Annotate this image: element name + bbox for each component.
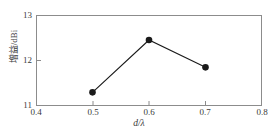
chart-figure: 13 12 11 0.4 0.5 0.6 0.7 0.8 d/λ 增益/dBi	[0, 0, 278, 139]
data-point-1	[146, 37, 153, 44]
y-axis-title: 增益/dBi	[7, 7, 20, 87]
data-point-0	[89, 89, 96, 96]
x-tick-label-0-5: 0.5	[80, 107, 106, 117]
x-axis-title: d/λ	[0, 118, 278, 128]
series-line-gain	[93, 40, 206, 92]
x-axis-ticks	[37, 101, 262, 106]
x-tick-label-0-6: 0.6	[136, 107, 162, 117]
data-point-2	[202, 64, 209, 71]
x-tick-label-0-4: 0.4	[23, 107, 49, 117]
x-tick-label-0-8: 0.8	[249, 107, 275, 117]
series-markers-gain	[89, 37, 209, 96]
y-axis-ticks	[36, 16, 41, 106]
x-tick-label-0-7: 0.7	[192, 107, 218, 117]
